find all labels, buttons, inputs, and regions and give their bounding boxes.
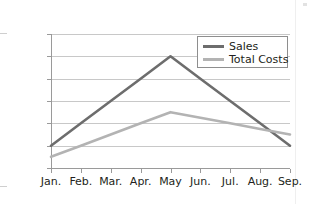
legend-swatch-sales	[203, 45, 224, 48]
series-lines	[0, 0, 310, 204]
legend-swatch-total-costs	[203, 58, 224, 61]
chart-legend: Sales Total Costs	[197, 36, 288, 68]
line-chart-figure: $0$200$400$600$800$1,000$1,200 Jan.Feb.M…	[0, 0, 310, 204]
legend-label-sales: Sales	[229, 41, 258, 52]
legend-item-sales: Sales	[203, 39, 258, 53]
series-line-sales	[51, 56, 290, 145]
legend-item-total-costs: Total Costs	[203, 52, 288, 66]
legend-label-total-costs: Total Costs	[229, 54, 288, 65]
